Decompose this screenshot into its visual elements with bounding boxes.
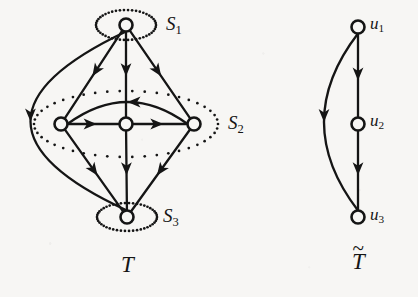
group-boundary-dot	[196, 143, 199, 146]
tilde-accent: ~	[352, 238, 363, 259]
group-boundary-dot	[167, 152, 170, 155]
group-boundary-dot	[120, 229, 123, 232]
vertex-u1[interactable]	[352, 21, 365, 34]
group-boundary-dot	[53, 143, 56, 146]
arrowhead-s2c-to-s3	[157, 162, 169, 176]
group-boundary-dot	[115, 10, 118, 13]
group-boundary-dot	[178, 96, 181, 99]
group-boundary-dot	[142, 11, 145, 14]
arrowhead-s1-to-s2c	[149, 62, 161, 76]
group-boundary-dot	[148, 14, 151, 17]
group-boundary-dot	[116, 229, 119, 232]
vertex-u3[interactable]	[352, 211, 365, 224]
group-boundary-dot	[99, 16, 102, 19]
group-boundary-dot	[102, 207, 105, 210]
group-boundary-dot	[213, 132, 216, 135]
group-label-S1: S1	[166, 14, 182, 36]
group-boundary-dot	[40, 136, 43, 139]
vertex-s2a[interactable]	[55, 118, 68, 131]
graph-caption-T-tilde: ~T	[352, 250, 365, 273]
group-boundary-dot	[106, 155, 109, 158]
vertex-label-u1: u1	[370, 15, 384, 34]
group-boundary-dot	[155, 214, 158, 217]
group-boundary-dot	[146, 226, 149, 229]
group-boundary-dot	[139, 203, 142, 206]
group-boundary-dot	[112, 228, 115, 231]
graph-Ttilde	[319, 21, 365, 224]
group-boundary-dot	[132, 202, 135, 205]
group-boundary-dot	[128, 230, 131, 233]
group-boundary-dot	[135, 10, 138, 13]
group-boundary-dot	[145, 13, 148, 16]
group-boundary-dot	[128, 202, 131, 205]
group-boundary-dot	[34, 127, 37, 130]
group-boundary-dot	[94, 154, 97, 157]
group-boundary-dot	[131, 38, 134, 41]
group-label-S3: S3	[163, 206, 179, 228]
group-boundary-dot	[131, 156, 134, 159]
group-boundary-dot	[119, 38, 122, 41]
group-boundary-dot	[136, 229, 139, 232]
group-boundary-dot	[216, 118, 219, 121]
group-boundary-dot	[149, 207, 152, 210]
group-boundary-dot	[62, 147, 65, 150]
group-boundary-dot	[143, 90, 146, 93]
group-boundary-dot	[146, 205, 149, 208]
group-boundary-dot	[36, 132, 39, 135]
vertex-s3[interactable]	[121, 211, 134, 224]
group-boundary-dot	[104, 35, 107, 38]
group-boundary-dot	[148, 33, 151, 36]
group-boundary-dot	[34, 118, 37, 121]
group-boundary-dot	[106, 90, 109, 93]
group-boundary-dot	[105, 226, 108, 229]
group-boundary-dot	[46, 140, 49, 143]
group-boundary-dot	[120, 202, 123, 205]
group-boundary-dot	[118, 156, 121, 159]
group-boundary-dot	[150, 31, 153, 34]
group-boundary-dot	[196, 102, 199, 105]
group-boundary-dot	[143, 227, 146, 230]
group-boundary-dot	[213, 114, 216, 117]
group-boundary-dot	[101, 14, 104, 17]
group-boundary-dot	[216, 127, 219, 130]
vertex-s1[interactable]	[120, 19, 133, 32]
group-boundary-dot	[145, 35, 148, 38]
graph-T	[25, 9, 219, 233]
group-boundary-dot	[72, 96, 75, 99]
group-label-S2: S2	[228, 113, 244, 135]
group-boundary-dot	[151, 223, 154, 226]
group-boundary-dot	[209, 110, 212, 113]
group-boundary-dot	[105, 205, 108, 208]
group-boundary-dot	[123, 9, 126, 12]
group-boundary-dot	[62, 99, 65, 102]
group-boundary-dot	[36, 114, 39, 117]
group-boundary-dot	[203, 106, 206, 109]
vertex-s2b[interactable]	[120, 118, 133, 131]
group-boundary-dot	[217, 123, 220, 126]
group-boundary-dot	[102, 224, 105, 227]
group-boundary-dot	[139, 228, 142, 231]
group-boundary-dot	[187, 147, 190, 150]
group-boundary-dot	[138, 37, 141, 40]
vertex-u2[interactable]	[352, 118, 365, 131]
graph-caption-T: T	[121, 253, 134, 276]
group-boundary-dot	[167, 93, 170, 96]
group-boundary-dot	[101, 33, 104, 36]
group-boundary-dot	[107, 11, 110, 14]
group-boundary-dot	[131, 90, 134, 93]
group-boundary-dot	[46, 106, 49, 109]
group-boundary-dot	[154, 22, 157, 25]
edge-s1-to-s3	[30, 32, 126, 211]
group-boundary-dot	[33, 123, 36, 126]
vertex-s2c[interactable]	[188, 118, 201, 131]
group-boundary-dot	[209, 136, 212, 139]
group-boundary-dot	[94, 92, 97, 95]
group-boundary-dot	[108, 204, 111, 207]
group-boundary-dot	[143, 155, 146, 158]
group-boundary-dot	[100, 208, 103, 211]
group-boundary-dot	[53, 102, 56, 105]
group-boundary-dot	[155, 154, 158, 157]
group-boundary-dot	[131, 9, 134, 12]
group-boundary-dot	[138, 10, 141, 13]
group-boundary-dot	[142, 36, 145, 39]
